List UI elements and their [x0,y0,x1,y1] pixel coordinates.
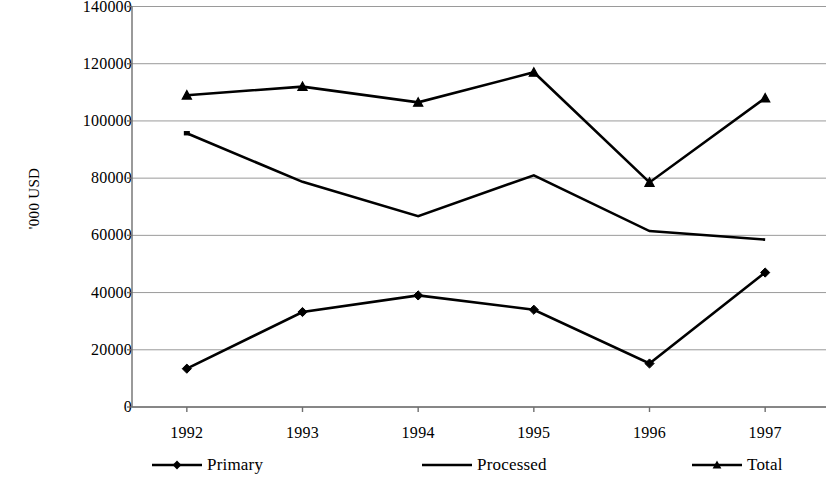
data-point-marker [182,364,191,373]
legend-item-primary[interactable]: Primary [150,452,263,478]
series-line-total [187,72,765,182]
series-start-nub-processed [184,131,190,135]
legend-label: Processed [477,455,547,475]
legend-item-total[interactable]: Total [690,452,783,478]
data-point-marker [298,307,307,316]
chart-legend: PrimaryProcessedTotal [0,452,837,484]
legend-marker-triangle-icon [690,458,744,472]
line-chart: '000 USD 1400001200001000008000060000400… [0,0,837,484]
data-point-marker [761,93,770,102]
legend-item-processed[interactable]: Processed [420,452,547,478]
legend-marker-none-icon [420,458,474,472]
legend-marker-diamond-icon [150,458,204,472]
series-line-processed [187,133,765,239]
series-line-primary [187,273,765,369]
plot-area [0,0,837,484]
legend-label: Primary [207,455,263,475]
legend-label: Total [747,455,783,475]
data-point-marker [529,305,538,314]
